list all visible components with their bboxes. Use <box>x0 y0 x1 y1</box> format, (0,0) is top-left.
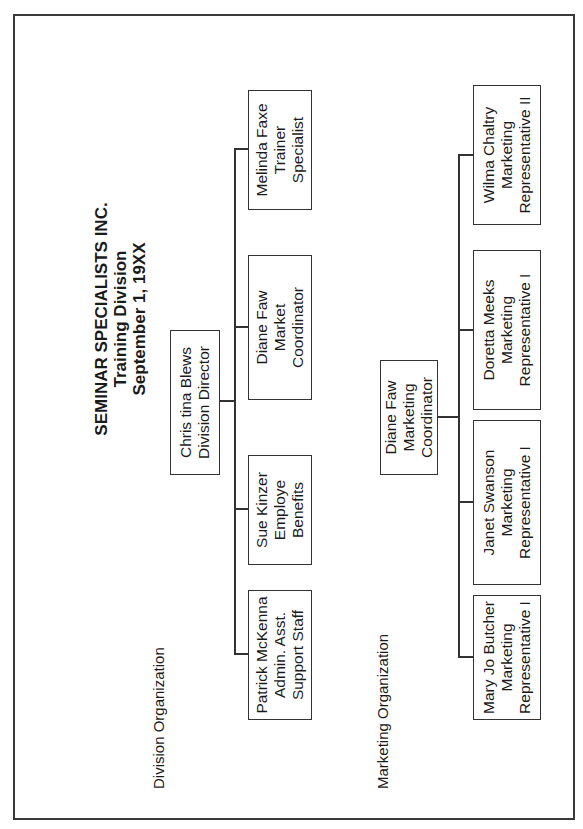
report-subtitle: Representative I <box>516 601 534 714</box>
division-report-box: Diane Faw Market Coordinator <box>248 255 312 400</box>
coordinator-title: Marketing <box>400 383 418 451</box>
report-subtitle: Benefits <box>289 482 307 538</box>
marketing-report-box: Wilma Chaltry Marketing Representative I… <box>473 85 541 225</box>
report-name: Diane Faw <box>253 290 271 364</box>
report-name: Janet Swanson <box>480 450 498 556</box>
document-title: SEMINAR SPECIALISTS INC. Training Divisi… <box>92 139 149 499</box>
connector <box>234 654 248 656</box>
report-subtitle: Specialist <box>289 117 307 183</box>
report-subtitle: Representative II <box>516 96 534 213</box>
report-name: Wilma Chaltry <box>480 107 498 203</box>
marketing-report-box: Janet Swanson Marketing Representative I <box>473 420 541 585</box>
connector <box>234 149 236 655</box>
report-name: Mary Jo Butcher <box>480 601 498 714</box>
report-subtitle: Coordinator <box>289 287 307 368</box>
connector <box>458 155 473 157</box>
marketing-coordinator-box: Diane Faw Marketing Coordinator <box>380 360 438 475</box>
report-subtitle: Support Staff <box>289 610 307 700</box>
connector <box>458 657 473 659</box>
title-date: September 1, 19XX <box>130 139 149 499</box>
connector <box>458 502 473 504</box>
director-title: Division Director <box>195 346 213 459</box>
report-title: Marketing <box>498 121 516 189</box>
report-subtitle: Representative I <box>516 274 534 387</box>
connector <box>458 330 473 332</box>
connector <box>234 509 248 511</box>
report-title: Admin. Asst. <box>271 612 289 698</box>
report-subtitle: Representative I <box>516 446 534 559</box>
title-company: SEMINAR SPECIALISTS INC. <box>92 139 111 499</box>
director-name: Chris tina Blews <box>177 347 195 458</box>
report-title: Marketing <box>498 468 516 536</box>
connector <box>234 327 248 329</box>
division-report-box: Melinda Faxe Trainer Specialist <box>248 90 312 210</box>
coordinator-name: Diane Faw <box>382 380 400 454</box>
coordinator-subtitle: Coordinator <box>418 377 436 458</box>
report-name: Patrick McKenna <box>253 596 271 713</box>
report-title: Trainer <box>271 126 289 175</box>
report-name: Melinda Faxe <box>253 103 271 196</box>
org-chart-page: SEMINAR SPECIALISTS INC. Training Divisi… <box>0 0 583 829</box>
connector <box>234 149 248 151</box>
report-name: Doretta Meeks <box>480 280 498 381</box>
report-name: Sue Kinzer <box>253 472 271 548</box>
connector <box>438 417 458 419</box>
report-title: Market <box>271 304 289 351</box>
marketing-report-box: Doretta Meeks Marketing Representative I <box>473 250 541 410</box>
title-division: Training Division <box>111 139 130 499</box>
report-title: Employe <box>271 480 289 540</box>
report-title: Marketing <box>498 296 516 364</box>
connector <box>458 155 460 658</box>
marketing-organization-label: Marketing Organization <box>374 634 391 789</box>
division-organization-label: Division Organization <box>150 647 167 789</box>
report-title: Marketing <box>498 623 516 691</box>
connector <box>220 401 234 403</box>
marketing-report-box: Mary Jo Butcher Marketing Representative… <box>473 595 541 720</box>
division-report-box: Patrick McKenna Admin. Asst. Support Sta… <box>248 590 312 720</box>
division-director-box: Chris tina Blews Division Director <box>170 330 220 475</box>
division-report-box: Sue Kinzer Employe Benefits <box>248 455 312 565</box>
